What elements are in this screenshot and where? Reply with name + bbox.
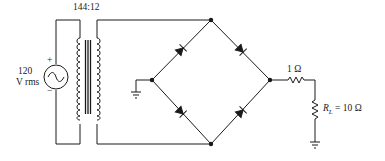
load-resistor-label: RL = 10 Ω	[323, 104, 362, 116]
bridge-wires	[152, 20, 270, 144]
source-minus: −	[47, 87, 52, 97]
circuit-diagram	[0, 0, 385, 161]
transformer-primary-coil	[77, 38, 80, 120]
series-resistor-label: 1 Ω	[287, 65, 301, 75]
primary-bottom-wire	[56, 90, 80, 144]
secondary-top-wire	[97, 20, 211, 38]
load-resistor-icon	[312, 100, 318, 119]
source-voltage-label: 120	[18, 67, 32, 77]
junction-dots	[150, 18, 272, 146]
source-plus: +	[47, 56, 52, 66]
series-resistor-icon	[288, 77, 304, 83]
source-unit-label: V rms	[16, 78, 39, 88]
secondary-bottom-wire	[97, 124, 211, 144]
load-ground-icon	[310, 142, 320, 148]
transformer-core	[86, 40, 91, 114]
transformer-ratio-label: 144:12	[73, 3, 99, 13]
primary-top-wire	[56, 20, 80, 64]
transformer-secondary-coil	[97, 38, 100, 120]
ground-icon	[131, 80, 152, 98]
